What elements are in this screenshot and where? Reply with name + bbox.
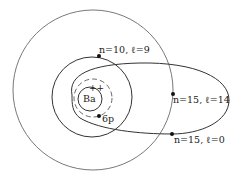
- orbit-diagram: ++ Ba 6p n=10, ℓ=9 n=15, ℓ=14 n=15, ℓ=0: [0, 0, 240, 182]
- label-n15-l14: n=15, ℓ=14: [173, 95, 230, 105]
- core-label: Ba: [83, 94, 96, 104]
- label-6p: 6p: [102, 114, 114, 124]
- label-n15-l0: n=15, ℓ=0: [174, 135, 225, 145]
- orbit-diagram-svg: [0, 0, 240, 182]
- core-charge: ++: [89, 84, 104, 93]
- electron-6p: [97, 114, 101, 118]
- label-n10-l9: n=10, ℓ=9: [99, 45, 150, 55]
